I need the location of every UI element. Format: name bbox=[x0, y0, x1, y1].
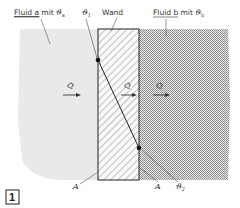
svg-text:Q̇: Q̇ bbox=[124, 81, 131, 90]
wall-label: Wand bbox=[102, 8, 123, 17]
theta2-label: ϑ2 bbox=[176, 182, 185, 192]
svg-text:Q̇: Q̇ bbox=[67, 81, 74, 90]
fluid-a-label: Fluid a mit ϑa bbox=[14, 8, 65, 18]
fluid-b-region bbox=[139, 29, 230, 180]
svg-text:Q̇: Q̇ bbox=[156, 81, 163, 90]
fluid-b-label: Fluid b mit ϑb bbox=[153, 8, 204, 18]
theta1-point bbox=[96, 58, 101, 63]
area-label-left: A bbox=[72, 182, 79, 191]
theta2-point bbox=[137, 146, 142, 151]
fluid-a-region bbox=[18, 29, 98, 180]
figure-number: 1 bbox=[9, 191, 15, 203]
heat-transfer-diagram: Fluid a mit ϑa ϑ1 Wand Fluid b mit ϑb Q̇… bbox=[0, 0, 240, 208]
area-label-right: A bbox=[154, 182, 161, 191]
theta1-label: ϑ1 bbox=[82, 8, 91, 18]
